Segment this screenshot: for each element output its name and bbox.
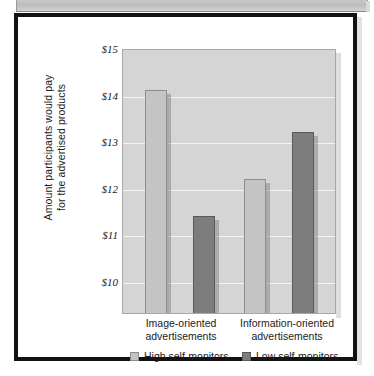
x-label-information-oriented: Information-oriented advertisements [214, 317, 360, 343]
figure-frame: Amount participants would pay for the ad… [14, 13, 357, 361]
y-axis-title-line-2: for the advertised products [54, 48, 67, 248]
y-tick-10: $10 [72, 277, 118, 288]
page-header-strip-shadow [366, 1, 370, 12]
y-axis-tick-labels: $15 $14 $13 $12 $11 $10 [68, 49, 118, 314]
figure-page: Amount participants would pay for the ad… [0, 0, 374, 376]
y-axis-title-line-1: Amount participants would pay [42, 48, 55, 248]
legend-swatch-icon-low [242, 352, 251, 361]
page-header-strip [16, 0, 368, 12]
bar-image-oriented-low-self-monitors[interactable] [193, 216, 215, 315]
bar-image-oriented-high-self-monitors[interactable] [145, 90, 167, 315]
bar-information-oriented-high-self-monitors[interactable] [244, 179, 266, 315]
bar-information-oriented-low-self-monitors[interactable] [292, 132, 314, 314]
x-label-information-oriented-line-1: Information-oriented [214, 317, 360, 330]
y-tick-11: $11 [72, 230, 118, 241]
y-tick-13: $13 [72, 137, 118, 148]
chart-legend: High self-monitors Low self-monitors [122, 350, 348, 366]
bar-shadow-3 [266, 183, 270, 315]
bar-shadow-2 [215, 220, 219, 315]
y-tick-14: $14 [72, 91, 118, 102]
y-tick-15: $15 [72, 44, 118, 55]
y-axis-title: Amount participants would pay for the ad… [42, 48, 67, 248]
bar-shadow-4 [314, 136, 318, 314]
figure-frame-shadow [357, 17, 362, 365]
plot-area [122, 49, 336, 314]
x-axis-labels: Image-oriented advertisements Informatio… [122, 317, 336, 349]
x-label-information-oriented-line-2: advertisements [214, 330, 360, 343]
plot-area-shadow [336, 53, 341, 318]
legend-label-high-self-monitors: High self-monitors [144, 350, 229, 362]
y-tick-12: $12 [72, 184, 118, 195]
legend-swatch-icon-high [130, 352, 139, 361]
bar-shadow-1 [167, 94, 171, 315]
legend-label-low-self-monitors: Low self-monitors [256, 350, 338, 362]
legend-item-high-self-monitors[interactable]: High self-monitors [130, 350, 229, 362]
legend-item-low-self-monitors[interactable]: Low self-monitors [242, 350, 338, 362]
